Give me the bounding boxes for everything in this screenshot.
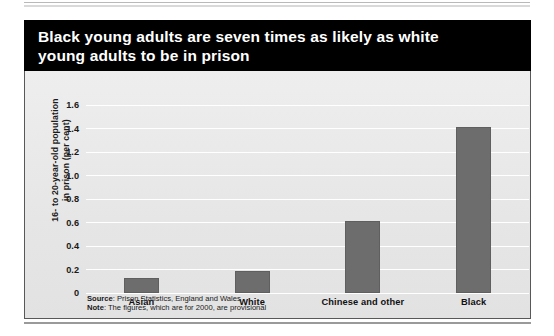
page-bottom-rule: [24, 322, 531, 324]
chart-title: Black young adults are seven times as li…: [38, 27, 517, 65]
note-text: : The figures, which are for 2000, are p…: [104, 303, 266, 312]
y-tick-label: 0.2: [66, 265, 79, 275]
y-tick-label: 0.8: [66, 194, 79, 204]
x-tick-label-black: Black: [461, 297, 486, 307]
y-tick-label: 1.6: [66, 100, 79, 110]
bar-white: [235, 271, 270, 293]
plot-area: 00.20.40.60.81.01.21.41.6AsianWhiteChine…: [86, 105, 529, 293]
bar-chinese-and-other: [345, 221, 380, 293]
gridline-1.6: [86, 105, 529, 106]
y-tick-label: 1.4: [66, 124, 79, 134]
source-text: : Prison Statistics, England and Wales: [113, 294, 241, 303]
figure-container: Black young adults are seven times as li…: [24, 20, 531, 319]
chart-panel: 16- to 20-year-old population in prison …: [24, 71, 531, 319]
page-top-rule: [24, 2, 530, 3]
note-label: Note: [87, 303, 104, 312]
y-tick-label: 1.0: [66, 171, 79, 181]
page-top-rule-secondary: [24, 5, 530, 7]
x-tick-label-chinese-and-other: Chinese and other: [321, 297, 404, 307]
y-tick-label: 1.2: [66, 147, 79, 157]
source-line: Source: Prison Statistics, England and W…: [87, 294, 266, 303]
y-tick-label: 0.4: [66, 241, 79, 251]
bar-asian: [124, 278, 159, 293]
chart-title-banner: Black young adults are seven times as li…: [24, 20, 531, 71]
note-line: Note: The figures, which are for 2000, a…: [87, 303, 266, 312]
y-tick-label: 0: [74, 288, 79, 298]
source-label: Source: [87, 294, 113, 303]
figure-notes: Source: Prison Statistics, England and W…: [87, 294, 266, 313]
y-tick-label: 0.6: [66, 218, 79, 228]
bar-black: [456, 127, 491, 293]
